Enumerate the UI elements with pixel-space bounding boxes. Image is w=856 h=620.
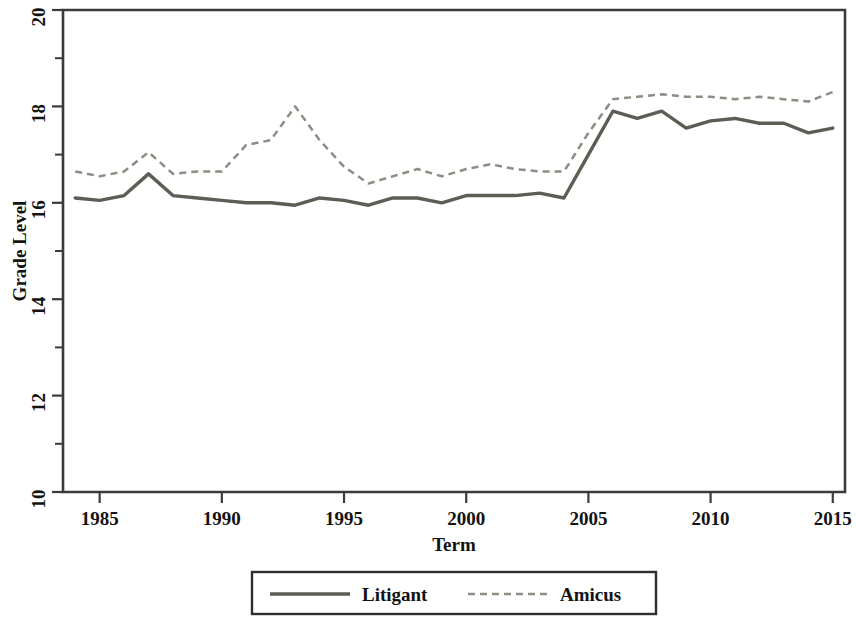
- x-tick-label-1985: 1985: [81, 508, 119, 529]
- legend-label-amicus: Amicus: [560, 584, 621, 605]
- x-tick-label-2000: 2000: [447, 508, 485, 529]
- y-tick-label-10: 10: [28, 490, 49, 509]
- legend-label-litigant: Litigant: [362, 584, 428, 605]
- x-tick-label-1995: 1995: [325, 508, 363, 529]
- y-tick-label-16: 16: [28, 200, 49, 219]
- line-chart-figure: 101214161820 198519901995200020052010201…: [0, 0, 856, 620]
- y-tick-label-18: 18: [28, 104, 49, 123]
- y-tick-label-14: 14: [28, 296, 49, 316]
- x-tick-label-2005: 2005: [569, 508, 607, 529]
- x-tick-label-2010: 2010: [692, 508, 730, 529]
- chart-legend: Litigant Amicus: [252, 572, 656, 614]
- x-axis-title: Term: [432, 534, 476, 555]
- y-axis-title: Grade Level: [9, 201, 30, 302]
- x-tick-label-1990: 1990: [203, 508, 241, 529]
- y-tick-label-12: 12: [28, 393, 49, 412]
- y-tick-label-20: 20: [28, 8, 49, 27]
- x-tick-label-2015: 2015: [814, 508, 852, 529]
